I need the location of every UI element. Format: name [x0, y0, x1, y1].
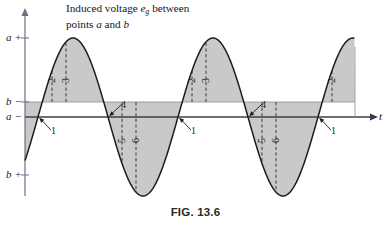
marker-label-4-9: 4 — [261, 99, 266, 110]
marker-label-6-5: 6 — [130, 138, 141, 143]
marker-label-2-13: 2 — [326, 78, 337, 83]
title2-b: b — [124, 18, 130, 30]
x-axis — [25, 114, 378, 121]
marker-label-6-11: 6 — [270, 138, 281, 143]
figure-caption: FIG. 13.6 — [0, 206, 391, 218]
marker-label-1-12: 1 — [331, 125, 336, 136]
waveform-plot — [0, 0, 391, 228]
ytick-sign-a-minus: − — [15, 111, 21, 122]
ytick-letter-b-minus: b — [6, 96, 12, 107]
ytick-sign-a-plus: + — [15, 32, 21, 43]
marker-label-3-8: 3 — [200, 78, 211, 83]
ytick-sign-b-plus: + — [15, 169, 21, 180]
marker-label-4-3: 4 — [121, 99, 126, 110]
figure-container: Induced voltage eg between points a and … — [0, 0, 391, 228]
ytick-letter-b-plus: b — [6, 169, 12, 180]
marker-label-1-0: 1 — [51, 125, 56, 136]
marker-label-5-4: 5 — [116, 138, 127, 143]
marker-label-2-1: 2 — [46, 78, 57, 83]
x-axis-label: t — [379, 110, 382, 122]
plot-title: Induced voltage eg between points a and … — [66, 2, 189, 32]
title-post: between — [149, 2, 189, 14]
marker-label-1-6: 1 — [191, 125, 196, 136]
marker-label-5-10: 5 — [256, 138, 267, 143]
marker-label-2-7: 2 — [186, 78, 197, 83]
ytick-letter-a-minus: a — [6, 111, 12, 122]
title2-pre: points — [66, 18, 96, 30]
ytick-sign-b-minus: − — [15, 96, 21, 107]
title-pre: Induced voltage — [66, 2, 141, 14]
ytick-letter-a-plus: a — [6, 32, 12, 43]
marker-label-3-2: 3 — [60, 78, 71, 83]
y-axis — [21, 8, 29, 196]
title2-mid: and — [102, 18, 124, 30]
